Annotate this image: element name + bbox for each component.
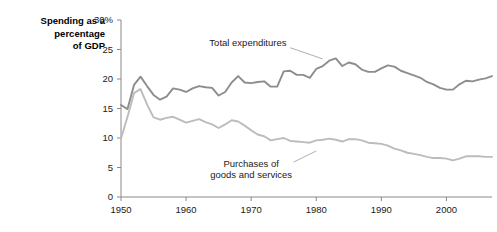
y-tick-label: 5 <box>108 162 113 173</box>
x-axis-ticks: 195019601970198019902000 <box>110 197 457 215</box>
y-tick-label: 15 <box>102 103 113 114</box>
annotation-leader-line <box>293 151 316 162</box>
y-tick-label: 10 <box>102 132 113 143</box>
x-tick-label: 1990 <box>371 204 392 215</box>
x-tick-label: 1950 <box>110 204 131 215</box>
x-tick-label: 2000 <box>436 204 457 215</box>
series-annotations: Total expendituresPurchases ofgoods and … <box>209 37 322 180</box>
y-tick-label: 25 <box>102 44 113 55</box>
y-tick-label: 30% <box>94 14 114 25</box>
x-tick-label: 1970 <box>241 204 262 215</box>
annotation-leader-line <box>290 48 323 59</box>
axis-title-line: of GDP <box>73 40 106 51</box>
chart-container: Spending as apercentageof GDP 0510152025… <box>0 0 497 232</box>
y-tick-label: 0 <box>108 191 113 202</box>
x-tick-label: 1980 <box>306 204 327 215</box>
data-series-group <box>121 58 492 160</box>
series-annotation-label: goods and services <box>210 169 292 180</box>
spending-line-chart: Spending as apercentageof GDP 0510152025… <box>0 0 497 232</box>
x-tick-label: 1960 <box>176 204 197 215</box>
series-annotation-label: Total expenditures <box>209 37 286 48</box>
series-annotation-label: Purchases of <box>223 158 279 169</box>
series-line <box>121 89 492 160</box>
series-line <box>121 58 492 109</box>
y-tick-label: 20 <box>102 73 113 84</box>
axis-title-line: percentage <box>54 28 105 39</box>
